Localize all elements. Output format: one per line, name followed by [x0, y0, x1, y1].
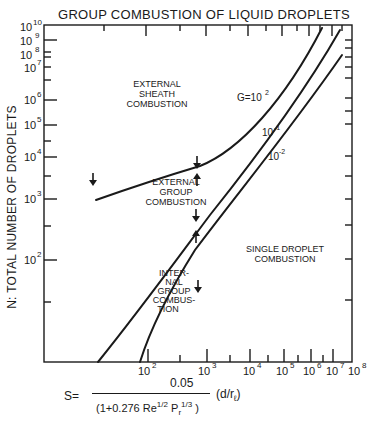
svg-text:COMBUSTION: COMBUSTION	[145, 197, 206, 207]
arrow-down-icon	[192, 209, 200, 222]
arrow-down-icon	[194, 280, 202, 293]
svg-text:-2: -2	[279, 148, 285, 155]
formula-numerator: 0.05	[170, 376, 193, 390]
svg-text:GROUP: GROUP	[159, 187, 192, 197]
svg-text:10: 10	[24, 151, 36, 163]
svg-text:SINGLE DROPLET: SINGLE DROPLET	[246, 244, 325, 254]
region-external-sheath: EXTERNAL SHEATH COMBUSTION	[126, 79, 187, 109]
svg-text:G=10: G=10	[237, 92, 262, 103]
region-internal-group: INTER- NAL GROUP COMBUS- TION	[153, 268, 196, 314]
svg-text:4: 4	[37, 147, 42, 156]
svg-text:-1: -1	[274, 124, 280, 131]
svg-text:4: 4	[257, 361, 262, 370]
formula-s-equals: S=	[64, 389, 79, 403]
svg-text:10: 10	[20, 21, 32, 33]
svg-text:10: 10	[262, 127, 274, 138]
arrow-down-icon	[89, 173, 97, 186]
svg-text:7: 7	[340, 361, 345, 370]
svg-text:10: 10	[20, 35, 32, 47]
curve-g-1e2	[96, 28, 322, 200]
region-external-group: EXTERNAL GROUP COMBUSTION	[145, 177, 206, 207]
svg-text:EXTERNAL: EXTERNAL	[133, 79, 181, 89]
svg-text:7: 7	[37, 58, 42, 67]
svg-text:10: 10	[24, 254, 36, 266]
svg-text:10: 10	[24, 119, 36, 131]
plot-frame	[44, 25, 352, 362]
y-axis-ticks-right	[345, 40, 352, 300]
svg-text:9: 9	[35, 31, 40, 40]
svg-text:COMBUSTION: COMBUSTION	[126, 99, 187, 109]
svg-text:10: 10	[24, 62, 36, 74]
svg-text:5: 5	[37, 115, 42, 124]
plot-area: 1010 109 108 107 106 105 104 103 102 102…	[0, 0, 371, 423]
svg-text:TION: TION	[157, 304, 179, 314]
svg-text:2: 2	[152, 361, 157, 370]
x-axis-ticks-top	[104, 25, 342, 36]
svg-text:EXTERNAL: EXTERNAL	[152, 177, 200, 187]
svg-text:5: 5	[290, 361, 295, 370]
svg-text:10: 10	[24, 94, 36, 106]
y-axis-ticks-left	[44, 40, 57, 302]
svg-text:COMBUSTION: COMBUSTION	[254, 254, 315, 264]
svg-text:10: 10	[268, 151, 280, 162]
svg-text:2: 2	[265, 89, 269, 96]
x-axis-formula: S= 0.05 (1+0.276 Re1/2 Pr1/3 ) (d/rℓ)	[0, 376, 371, 423]
x-axis-ticks-bottom	[148, 349, 333, 362]
svg-text:3: 3	[212, 361, 217, 370]
x-tick-labels: 102 103 104 105 106 107 108	[138, 361, 367, 377]
y-tick-labels: 1010 109 108 107 106 105 104 103 102	[20, 18, 42, 266]
svg-text:8: 8	[362, 361, 367, 370]
svg-text:2: 2	[37, 250, 42, 259]
region-single-droplet: SINGLE DROPLET COMBUSTION	[246, 244, 325, 264]
svg-text:10: 10	[20, 49, 32, 61]
svg-text:SHEATH: SHEATH	[139, 89, 175, 99]
formula-d-over-r: (d/rℓ)	[216, 387, 241, 403]
svg-text:10: 10	[33, 18, 42, 27]
svg-text:6: 6	[317, 361, 322, 370]
svg-text:6: 6	[37, 90, 42, 99]
formula-denominator: (1+0.276 Re1/2 Pr1/3 )	[96, 400, 199, 417]
fraction-bar	[92, 393, 210, 394]
svg-text:3: 3	[37, 189, 42, 198]
svg-text:8: 8	[35, 45, 40, 54]
svg-text:10: 10	[24, 193, 36, 205]
